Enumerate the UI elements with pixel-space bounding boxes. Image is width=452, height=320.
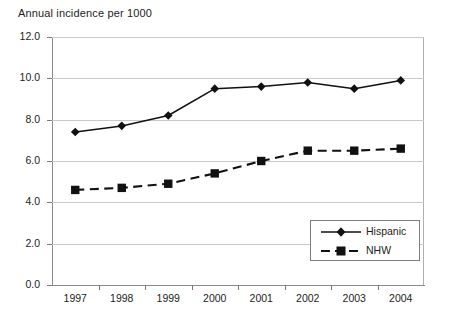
x-tick-label: 1998 [99, 292, 145, 304]
y-tick-mark [47, 285, 52, 286]
x-tick-label: 2001 [238, 292, 284, 304]
gridline [52, 120, 424, 121]
x-tick-label: 1997 [52, 292, 98, 304]
chart-title: Annual incidence per 1000 [18, 7, 152, 20]
y-tick-mark [47, 120, 52, 121]
x-tick-label: 2004 [378, 292, 424, 304]
gridline [52, 37, 424, 38]
x-tick-mark [331, 285, 332, 290]
legend-entry-nhw: NHW [311, 241, 421, 261]
x-tick-mark [285, 285, 286, 290]
x-tick-label: 2000 [192, 292, 238, 304]
x-tick-label: 2003 [331, 292, 377, 304]
x-tick-label: 1999 [145, 292, 191, 304]
y-tick-label: 12.0 [20, 31, 40, 42]
legend-glyph-diamond-icon [319, 222, 363, 242]
incidence-line-chart: Annual incidence per 1000 0.02.04.06.08.… [0, 0, 452, 320]
legend-glyph-square-icon [319, 241, 363, 261]
y-tick-mark [47, 37, 52, 38]
y-tick-mark [47, 202, 52, 203]
chart-legend: Hispanic NHW [310, 220, 420, 261]
legend-label-nhw: NHW [366, 244, 391, 257]
y-tick-mark [47, 161, 52, 162]
y-tick-label: 8.0 [25, 114, 40, 125]
y-tick-label: 10.0 [20, 72, 40, 83]
gridline [52, 202, 424, 203]
gridline [52, 161, 424, 162]
y-tick-label: 2.0 [25, 238, 40, 249]
x-tick-mark [99, 285, 100, 290]
x-tick-mark [145, 285, 146, 290]
y-tick-label: 6.0 [25, 155, 40, 166]
legend-label-hispanic: Hispanic [366, 225, 406, 238]
gridline [52, 78, 424, 79]
y-tick-mark [47, 78, 52, 79]
y-tick-mark [47, 244, 52, 245]
x-tick-mark [192, 285, 193, 290]
legend-entry-hispanic: Hispanic [311, 222, 421, 242]
y-tick-label: 4.0 [25, 196, 40, 207]
x-tick-mark [378, 285, 379, 290]
x-tick-label: 2002 [285, 292, 331, 304]
y-tick-label: 0.0 [25, 279, 40, 290]
x-tick-mark [238, 285, 239, 290]
